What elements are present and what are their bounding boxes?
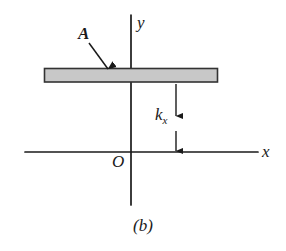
y-axis-label: y	[137, 14, 145, 31]
distance-subscript: x	[163, 114, 168, 126]
figure-container: A y x O kx (b)	[0, 0, 286, 251]
distance-symbol: k	[155, 105, 163, 124]
coordinate-diagram	[0, 0, 286, 251]
figure-caption: (b)	[0, 216, 286, 236]
distance-label: kx	[155, 106, 167, 126]
x-axis-label: x	[262, 143, 270, 160]
origin-label: O	[112, 153, 124, 170]
area-bar	[45, 69, 218, 83]
area-leader-arrow	[89, 43, 108, 69]
area-label: A	[78, 25, 89, 42]
